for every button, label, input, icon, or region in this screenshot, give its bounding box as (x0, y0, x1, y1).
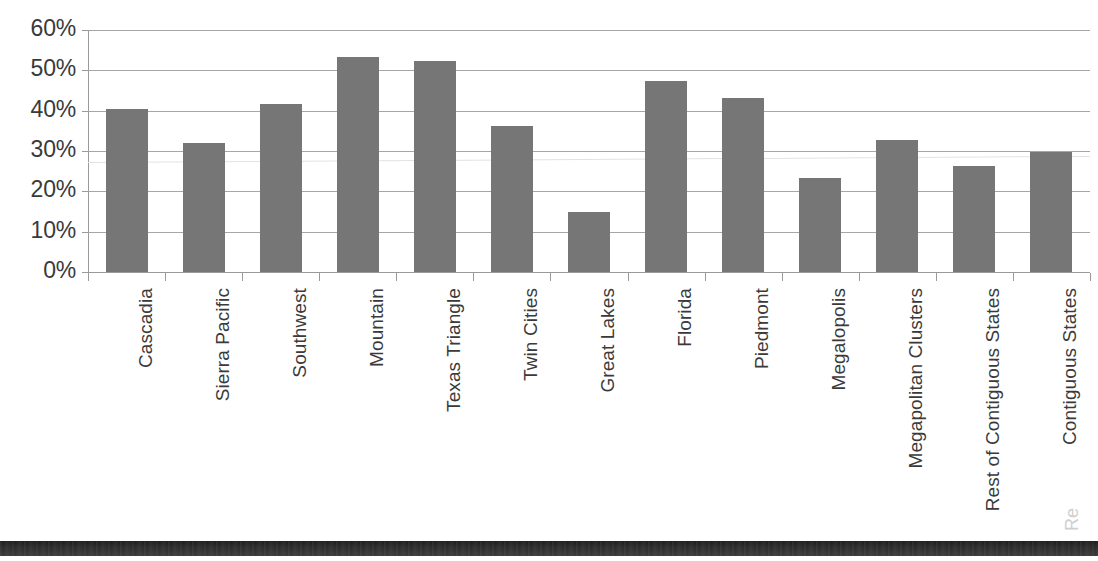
x-tick-mark (88, 273, 89, 281)
x-tick-mark (242, 273, 243, 281)
category-label: Twin Cities (520, 288, 542, 381)
category-label: Southwest (289, 288, 311, 378)
category-label: Great Lakes (597, 288, 619, 393)
gridline-60 (88, 30, 1090, 31)
x-tick-mark (628, 273, 629, 281)
x-tick-mark (936, 273, 937, 281)
category-label: Contiguous States (1059, 288, 1081, 445)
chart-figure: 0%10%20%30%40%50%60% CascadiaSierra Paci… (0, 0, 1098, 561)
category-label: Piedmont (751, 288, 773, 369)
bar (876, 140, 918, 272)
x-tick-mark (473, 273, 474, 281)
y-tick-label: 60% (0, 15, 76, 42)
bar (953, 166, 995, 272)
category-label: Cascadia (135, 288, 157, 368)
category-label: Rest of Contiguous States (982, 288, 1004, 511)
x-tick-mark (396, 273, 397, 281)
gridline-50 (88, 70, 1090, 71)
category-label: Megapolitan Clusters (905, 288, 927, 468)
category-label: Florida (674, 288, 696, 347)
y-tick-label: 30% (0, 136, 76, 163)
x-tick-mark (1090, 273, 1091, 281)
x-tick-mark (1013, 273, 1014, 281)
gridline-20 (88, 191, 1090, 192)
x-tick-mark (319, 273, 320, 281)
x-tick-mark (705, 273, 706, 281)
category-label: Megalopolis (828, 288, 850, 391)
bar (722, 98, 764, 272)
plot-area (88, 30, 1090, 272)
y-tick-label: 10% (0, 217, 76, 244)
category-label: Sierra Pacific (212, 288, 234, 401)
bar (183, 143, 225, 272)
gridline-30 (88, 151, 1090, 152)
y-tick-label: 20% (0, 176, 76, 203)
bar (1030, 152, 1072, 272)
bar (491, 126, 533, 272)
gridline-0 (88, 272, 1090, 273)
scan-artifact-line (88, 156, 1090, 163)
bar (414, 61, 456, 272)
bar (106, 109, 148, 272)
bar (260, 104, 302, 272)
scan-bottom-edge (0, 556, 1098, 561)
bar (645, 81, 687, 272)
bar (799, 178, 841, 272)
bar (337, 57, 379, 272)
category-label: Mountain (366, 288, 388, 367)
category-label: Texas Triangle (443, 288, 465, 412)
bar (568, 212, 610, 273)
x-tick-mark (859, 273, 860, 281)
y-tick-label: 40% (0, 96, 76, 123)
x-tick-mark (782, 273, 783, 281)
x-tick-mark (165, 273, 166, 281)
margin-text-fragment: Re (1062, 508, 1083, 531)
y-tick-label: 50% (0, 55, 76, 82)
x-tick-mark (550, 273, 551, 281)
scan-bottom-band-noise (0, 541, 1098, 556)
gridline-40 (88, 111, 1090, 112)
y-tick-label: 0% (0, 257, 76, 284)
